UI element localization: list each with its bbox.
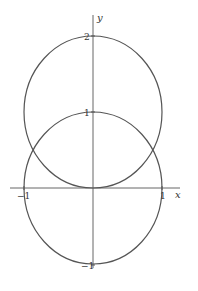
x-axis-label: x bbox=[175, 189, 181, 200]
y-tick-label-1: 1 bbox=[84, 108, 90, 118]
polar-plot: y x 2 1 −1 −1 −1 1 bbox=[0, 0, 198, 291]
y-tick-label-minus1: −1 bbox=[81, 261, 94, 271]
x-tick-label-1: 1 bbox=[160, 191, 166, 201]
y-axis-label: y bbox=[96, 12, 103, 23]
y-tick-label-2: 2 bbox=[84, 32, 90, 42]
x-tick-label-neg1: −1 bbox=[17, 191, 30, 201]
